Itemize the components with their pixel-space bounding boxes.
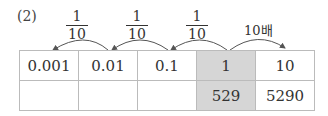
place-value-table: 0.001 0.01 0.1 1 10 529 5290 (19, 50, 315, 111)
table-cell: 0.1 (138, 51, 197, 81)
table-cell (138, 81, 197, 111)
table-cell-highlighted: 1 (197, 51, 256, 81)
fraction-one-tenth-1: 1 10 (62, 9, 92, 42)
table-cell: 0.001 (20, 51, 79, 81)
table-row: 0.001 0.01 0.1 1 10 (20, 51, 315, 81)
table-cell (20, 81, 79, 111)
fraction-one-tenth-3: 1 10 (182, 9, 212, 42)
table-cell (79, 81, 138, 111)
table-row: 529 5290 (20, 81, 315, 111)
table-cell: 0.01 (79, 51, 138, 81)
table-cell: 5290 (256, 81, 315, 111)
table-cell: 10 (256, 51, 315, 81)
ten-times-label: 10배 (244, 20, 273, 39)
fraction-one-tenth-2: 1 10 (122, 9, 152, 42)
arc-arrow-right (230, 39, 285, 50)
table-cell-highlighted: 529 (197, 81, 256, 111)
